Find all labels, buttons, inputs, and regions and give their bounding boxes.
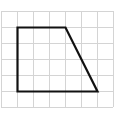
grid-diagram bbox=[0, 0, 118, 114]
